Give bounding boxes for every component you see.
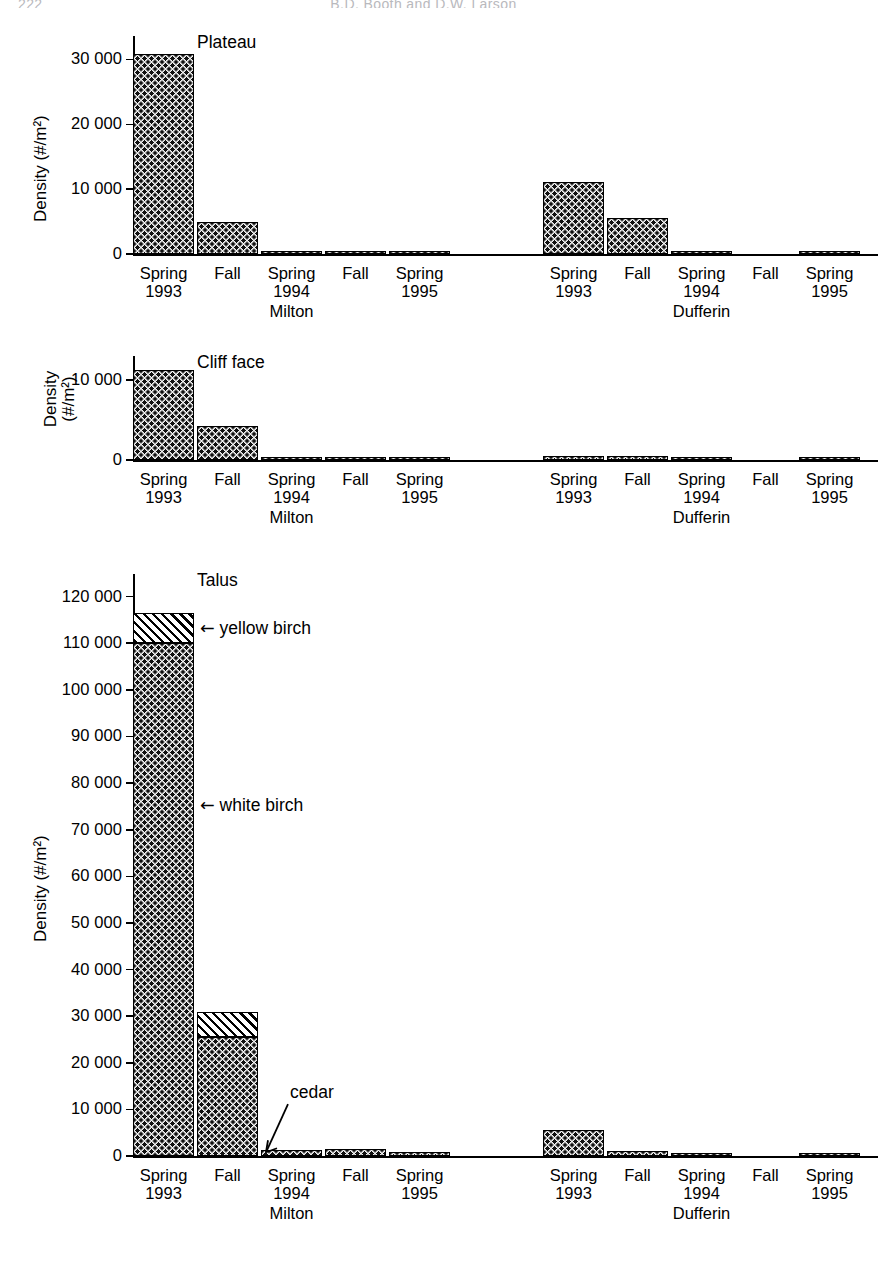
y-axis-tick xyxy=(126,188,133,190)
site-label-milton: Milton xyxy=(239,302,344,321)
x-label-year: 1995 xyxy=(785,488,874,506)
chart-panel-plateau: 010 00020 00030 000Density (#/m²)Plateau… xyxy=(0,22,847,322)
x-axis-category-label: Spring1995 xyxy=(785,264,874,301)
y-axis-tick xyxy=(126,253,133,255)
x-label-year: 1994 xyxy=(657,282,746,300)
panel-title: Cliff face xyxy=(197,352,265,373)
bar-white-birch xyxy=(543,182,604,254)
bar-white-birch xyxy=(133,54,194,254)
y-axis-tick-label: 30 000 xyxy=(0,50,122,67)
site-label-milton: Milton xyxy=(239,508,344,527)
bar-white-birch xyxy=(133,370,194,460)
y-axis-label-line1: Density xyxy=(42,344,60,454)
bar-white-birch xyxy=(543,456,604,460)
x-label-season: Spring xyxy=(375,470,464,488)
y-axis-tick xyxy=(126,59,133,61)
running-head: 222 B.D. Booth and D.W. Larson xyxy=(0,0,847,8)
bar-white-birch xyxy=(671,457,732,460)
x-label-year: 1994 xyxy=(247,282,336,300)
bar-white-birch xyxy=(607,456,668,460)
x-label-year: 1993 xyxy=(529,488,618,506)
x-axis-line xyxy=(133,254,878,256)
y-axis-label-line2: (#/m²) xyxy=(60,344,78,454)
y-axis-tick-label: 10 000 xyxy=(0,180,122,197)
x-axis-category-label: Spring1995 xyxy=(375,264,464,301)
bar-white-birch xyxy=(325,457,386,460)
bar-white-birch xyxy=(671,251,732,254)
x-label-year: 1994 xyxy=(247,488,336,506)
x-label-year: 1994 xyxy=(657,488,746,506)
chart-panel-talus: 010 00020 00030 00040 00050 00060 00070 … xyxy=(0,550,847,1276)
y-axis-tick xyxy=(126,124,133,126)
y-axis-tick xyxy=(126,459,133,461)
x-axis-category-label: Spring1995 xyxy=(375,470,464,507)
y-axis-tick-label: 0 xyxy=(0,245,122,262)
x-axis-category-label: Spring1995 xyxy=(785,470,874,507)
panel-title: Plateau xyxy=(197,32,256,53)
bar-white-birch xyxy=(325,251,386,254)
bar-white-birch xyxy=(799,251,860,254)
cedar-arrow-icon xyxy=(0,550,847,1276)
site-label-dufferin: Dufferin xyxy=(649,302,754,321)
x-label-season: Spring xyxy=(375,264,464,282)
x-label-year: 1993 xyxy=(119,488,208,506)
bar-white-birch xyxy=(197,222,258,254)
bar-white-birch xyxy=(607,218,668,254)
x-label-year: 1993 xyxy=(529,282,618,300)
running-title: B.D. Booth and D.W. Larson xyxy=(0,0,847,8)
bar-white-birch xyxy=(389,457,450,460)
x-label-season: Spring xyxy=(785,264,874,282)
bar-white-birch xyxy=(261,251,322,254)
y-axis-label: Density (#/m²) xyxy=(32,115,50,222)
x-label-season: Spring xyxy=(785,470,874,488)
y-axis-tick-label: 20 000 xyxy=(0,115,122,132)
y-axis-tick xyxy=(126,379,133,381)
chart-panel-cliff-face: 010 000Density(#/m²)Cliff faceSpring1993… xyxy=(0,342,847,542)
bar-white-birch xyxy=(799,457,860,460)
bar-white-birch xyxy=(197,426,258,460)
x-label-year: 1995 xyxy=(375,282,464,300)
x-label-year: 1995 xyxy=(785,282,874,300)
bar-white-birch xyxy=(261,457,322,460)
site-label-dufferin: Dufferin xyxy=(649,508,754,527)
x-axis-line xyxy=(133,460,878,462)
y-axis-label: Density(#/m²) xyxy=(42,344,79,454)
bar-white-birch xyxy=(389,251,450,254)
x-label-year: 1993 xyxy=(119,282,208,300)
x-label-year: 1995 xyxy=(375,488,464,506)
